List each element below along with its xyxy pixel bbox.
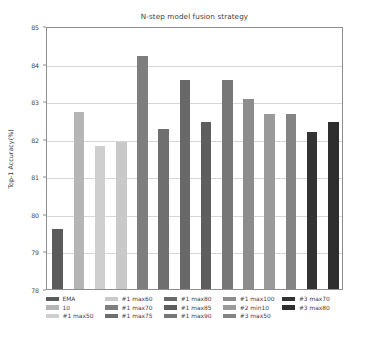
legend-entry[interactable]: #1 max80: [164, 296, 223, 302]
legend-column: #1 max100#2 min10#3 max50: [223, 296, 282, 334]
legend-label: #1 max50: [63, 313, 94, 319]
y-tick-label: 81: [31, 174, 39, 181]
bar: [201, 122, 212, 289]
y-tick-label: 83: [31, 99, 39, 106]
legend-entry[interactable]: #1 max50: [46, 313, 105, 319]
legend-entry[interactable]: #1 max85: [164, 305, 223, 311]
legend-swatch: [164, 314, 177, 319]
legend-label: #3 max80: [299, 305, 330, 311]
legend-entry[interactable]: #1 max90: [164, 313, 223, 319]
legend-swatch: [105, 297, 118, 302]
legend-column: #3 max70#3 max80: [282, 296, 346, 334]
legend-swatch: [223, 314, 236, 319]
legend-swatch: [46, 305, 59, 310]
y-tick-label: 85: [31, 24, 39, 31]
legend-entry[interactable]: #1 max75: [105, 313, 164, 319]
y-tick-label: 84: [31, 61, 39, 68]
legend-label: #2 min10: [240, 305, 269, 311]
legend-label: #1 max100: [240, 296, 275, 302]
bar: [286, 114, 297, 289]
bar: [158, 129, 169, 289]
y-axis: Top-1 Accuracy(%) 7879808182838485: [0, 27, 46, 290]
y-tick-label: 79: [31, 249, 39, 256]
chart-legend: EMA10#1 max50#1 max60#1 max70#1 max75#1 …: [46, 296, 346, 334]
chart-figure: N-step model fusion strategy Top-1 Accur…: [0, 0, 390, 340]
bar: [116, 142, 127, 289]
legend-swatch: [164, 297, 177, 302]
legend-entry[interactable]: #1 max60: [105, 296, 164, 302]
bar: [52, 229, 63, 289]
legend-label: #1 max60: [122, 296, 153, 302]
bar: [264, 114, 275, 289]
legend-column: #1 max60#1 max70#1 max75: [105, 296, 164, 334]
legend-swatch: [282, 305, 295, 310]
y-tick-label: 78: [31, 287, 39, 294]
legend-entry[interactable]: #2 min10: [223, 305, 282, 311]
legend-label: #3 max50: [240, 313, 271, 319]
legend-swatch: [105, 305, 118, 310]
legend-entry[interactable]: #3 max70: [282, 296, 346, 302]
legend-entry[interactable]: #1 max70: [105, 305, 164, 311]
legend-entry[interactable]: #3 max50: [223, 313, 282, 319]
bar-series: [47, 28, 342, 289]
legend-swatch: [105, 314, 118, 319]
bar: [137, 56, 148, 289]
legend-label: #1 max80: [181, 296, 212, 302]
legend-label: #1 max90: [181, 313, 212, 319]
bar: [328, 122, 339, 289]
legend-swatch: [223, 297, 236, 302]
legend-label: #1 max75: [122, 313, 153, 319]
plot-area: [46, 27, 343, 290]
bar: [307, 132, 318, 289]
bar: [95, 146, 106, 289]
bar: [243, 99, 254, 289]
bar: [222, 80, 233, 289]
legend-swatch: [164, 305, 177, 310]
legend-label: EMA: [63, 296, 76, 302]
chart-title: N-step model fusion strategy: [46, 12, 343, 21]
legend-label: #1 max85: [181, 305, 212, 311]
legend-label: #3 max70: [299, 296, 330, 302]
legend-label: 10: [63, 305, 71, 311]
legend-entry[interactable]: #3 max80: [282, 305, 346, 311]
legend-swatch: [282, 297, 295, 302]
legend-entry[interactable]: 10: [46, 305, 105, 311]
y-axis-label: Top-1 Accuracy(%): [7, 99, 15, 219]
legend-column: EMA10#1 max50: [46, 296, 105, 334]
legend-entry[interactable]: #1 max100: [223, 296, 282, 302]
bar: [180, 80, 191, 289]
legend-column: #1 max80#1 max85#1 max90: [164, 296, 223, 334]
legend-label: #1 max70: [122, 305, 153, 311]
y-tick-label: 82: [31, 136, 39, 143]
bar: [74, 112, 85, 289]
y-tick-label: 80: [31, 211, 39, 218]
legend-swatch: [46, 314, 59, 319]
legend-swatch: [223, 305, 236, 310]
legend-swatch: [46, 297, 59, 302]
legend-entry[interactable]: EMA: [46, 296, 105, 302]
